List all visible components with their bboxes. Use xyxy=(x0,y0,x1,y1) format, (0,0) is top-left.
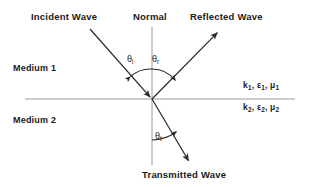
incident-wave-label: Incident Wave xyxy=(31,12,97,22)
medium-1-label: Medium 1 xyxy=(13,64,56,73)
optics-diagram: Incident Wave Normal Reflected Wave Tran… xyxy=(0,0,311,187)
transmitted-wave-label: Transmitted Wave xyxy=(142,170,226,180)
reflected-wave-label: Reflected Wave xyxy=(190,12,263,22)
medium-2-label: Medium 2 xyxy=(13,116,56,125)
reflected-angle-label: θr xyxy=(152,55,159,64)
transmitted-ray xyxy=(152,99,189,161)
angle-arc-incident xyxy=(131,69,153,77)
transmitted-angle-label: θt xyxy=(155,132,162,141)
permittivity-2-subscript: 2 xyxy=(261,106,265,113)
permeability-1-subscript: 1 xyxy=(275,84,279,91)
permittivity-1-subscript: 1 xyxy=(261,84,265,91)
normal-label: Normal xyxy=(133,12,167,22)
reflected-ray xyxy=(152,33,217,99)
theta-t-subscript: t xyxy=(160,135,162,142)
wavenumber-1-subscript: 1 xyxy=(248,84,252,91)
permeability-2-subscript: 2 xyxy=(275,106,279,113)
wavenumber-2-subscript: 2 xyxy=(248,106,252,113)
theta-r-subscript: r xyxy=(157,58,159,65)
theta-i-subscript: i xyxy=(132,58,133,65)
medium-2-parameters-label: k2, ε2, μ2 xyxy=(243,103,279,112)
diagram-canvas xyxy=(0,0,311,187)
incident-angle-label: θi xyxy=(127,55,133,64)
medium-1-parameters-label: k1, ε1, μ1 xyxy=(243,81,279,90)
incident-ray xyxy=(90,29,150,97)
